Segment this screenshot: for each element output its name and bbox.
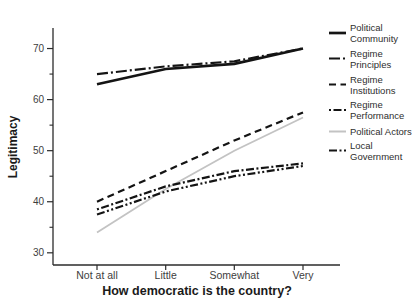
- legend-label-political-community-line1: Political: [350, 22, 383, 33]
- x-tick-label-not-at-all: Not at all: [76, 269, 117, 281]
- legitimacy-chart: 3040506070Not at allLittleSomewhatVeryPo…: [0, 0, 418, 302]
- series-line-regime-institutions: [97, 112, 303, 201]
- legend-label-local-government-line1: Local: [350, 140, 373, 151]
- x-axis-title: How democratic is the country?: [102, 284, 292, 298]
- y-axis-title: Legitimacy: [6, 116, 20, 179]
- y-tick-label: 40: [33, 196, 45, 207]
- legitimacy-democracy-figure: 3040506070Not at allLittleSomewhatVeryPo…: [0, 0, 418, 302]
- legend-label-regime-performance-line1: Regime: [350, 99, 383, 110]
- legend-label-regime-institutions-line2: Institutions: [350, 85, 396, 96]
- y-tick-label: 30: [33, 247, 45, 258]
- y-tick-label: 60: [33, 94, 45, 105]
- series-line-political-actors: [97, 118, 303, 233]
- x-tick-label-very: Very: [292, 269, 314, 281]
- x-tick-label-somewhat: Somewhat: [209, 269, 259, 281]
- legend-label-regime-performance-line2: Performance: [350, 110, 404, 121]
- y-tick-label: 50: [33, 145, 45, 156]
- legend-label-regime-principles-line1: Regime: [350, 48, 383, 59]
- legend-label-local-government-line2: Government: [350, 151, 403, 162]
- legend-label-political-actors: Political Actors: [350, 126, 412, 137]
- legend-label-political-community-line2: Community: [350, 33, 398, 44]
- legend-label-regime-principles-line2: Principles: [350, 59, 391, 70]
- y-tick-label: 70: [33, 43, 45, 54]
- series-line-local-government: [97, 166, 303, 215]
- legend-label-regime-institutions-line1: Regime: [350, 74, 383, 85]
- x-tick-label-little: Little: [155, 269, 177, 281]
- series-line-regime-principles: [97, 49, 303, 75]
